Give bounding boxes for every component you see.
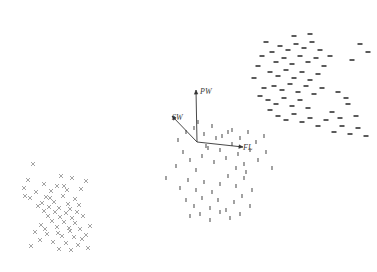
plot-svg: PWSWFL [0, 0, 377, 272]
data-point [364, 135, 369, 137]
data-point [354, 115, 359, 117]
data-point [262, 87, 267, 89]
data-point [280, 89, 285, 91]
data-point [300, 121, 305, 123]
data-point [268, 109, 273, 111]
axis-label-sw: SW [172, 113, 184, 122]
data-point [312, 93, 317, 95]
data-point [292, 77, 297, 79]
data-point [292, 113, 297, 115]
data-point [264, 41, 269, 43]
data-point [300, 71, 305, 73]
data-point [322, 65, 327, 67]
data-point [340, 125, 345, 127]
data-point [282, 97, 287, 99]
data-point [308, 33, 313, 35]
axis-label-fl: FL [242, 143, 253, 152]
data-point [270, 51, 275, 53]
data-point [286, 49, 291, 51]
axis-label-pw: PW [199, 87, 213, 96]
data-point [330, 111, 335, 113]
data-point [366, 51, 371, 53]
data-point [268, 71, 273, 73]
data-point [308, 79, 313, 81]
data-point [304, 85, 309, 87]
data-point [252, 77, 257, 79]
data-point [272, 85, 277, 87]
data-point [356, 127, 361, 129]
data-point [276, 115, 281, 117]
data-point [296, 91, 301, 93]
data-point [274, 103, 279, 105]
data-point [290, 105, 295, 107]
data-point [310, 41, 315, 43]
data-point [306, 61, 311, 63]
data-point [282, 57, 287, 59]
data-point [266, 99, 271, 101]
data-point [316, 125, 321, 127]
data-point [338, 117, 343, 119]
data-point [350, 59, 355, 61]
data-point [290, 63, 295, 65]
data-point [308, 117, 313, 119]
data-point [348, 133, 353, 135]
data-point [346, 103, 351, 105]
data-point [316, 73, 321, 75]
data-point [260, 55, 265, 57]
data-point [284, 119, 289, 121]
data-point [292, 35, 297, 37]
data-point [256, 65, 261, 67]
data-point [302, 47, 307, 49]
data-point [332, 131, 337, 133]
data-point [274, 61, 279, 63]
data-point [298, 99, 303, 101]
data-point [358, 43, 363, 45]
plot-canvas: PWSWFL [0, 0, 377, 272]
data-point [294, 43, 299, 45]
data-point [344, 97, 349, 99]
data-point [276, 75, 281, 77]
data-point [324, 119, 329, 121]
data-point [318, 49, 323, 51]
data-point [284, 69, 289, 71]
data-point [336, 91, 341, 93]
data-point [314, 57, 319, 59]
data-point [298, 55, 303, 57]
data-point [320, 87, 325, 89]
data-point [306, 107, 311, 109]
data-point [328, 55, 333, 57]
data-point [258, 95, 263, 97]
data-point [278, 45, 283, 47]
data-point [288, 83, 293, 85]
